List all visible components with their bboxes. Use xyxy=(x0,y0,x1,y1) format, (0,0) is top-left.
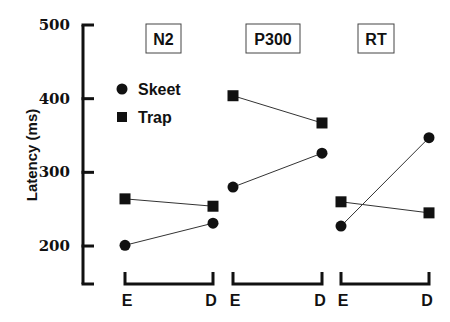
x-axis-bracket xyxy=(341,272,429,284)
y-tick-label: 200 xyxy=(39,237,70,255)
panels: N2EDP300EDRTED xyxy=(120,24,435,309)
x-axis-bracket xyxy=(233,272,322,284)
data-point-square xyxy=(424,207,435,218)
data-point-circle xyxy=(120,240,131,251)
x-category-label: E xyxy=(230,292,241,309)
x-axis-bracket xyxy=(125,272,213,284)
data-point-circle xyxy=(228,182,239,193)
y-tick-label: 300 xyxy=(39,163,70,181)
data-point-circle xyxy=(208,218,219,229)
series-line-skeet xyxy=(341,138,429,226)
y-axis: 200300400500 xyxy=(39,16,94,284)
legend-circle-icon xyxy=(117,84,128,95)
panel-label: P300 xyxy=(254,31,291,48)
x-category-label: D xyxy=(314,292,326,309)
panel-p300: P300ED xyxy=(228,24,328,309)
data-point-square xyxy=(336,196,347,207)
x-category-label: D xyxy=(205,292,217,309)
series-line-skeet xyxy=(125,223,213,245)
panel-label: RT xyxy=(365,31,387,48)
legend-label-skeet: Skeet xyxy=(138,81,181,98)
x-category-label: D xyxy=(421,292,433,309)
data-point-square xyxy=(120,193,131,204)
data-point-circle xyxy=(424,132,435,143)
latency-chart: 200300400500 Latency (ms) N2EDP300EDRTED… xyxy=(0,0,450,322)
legend-label-trap: Trap xyxy=(138,109,172,126)
data-point-circle xyxy=(336,221,347,232)
y-axis-title: Latency (ms) xyxy=(23,109,40,202)
data-point-square xyxy=(228,90,239,101)
panel-rt: RTED xyxy=(336,24,435,309)
series-line-trap xyxy=(125,199,213,206)
y-tick-label: 400 xyxy=(39,90,70,108)
legend: Skeet Trap xyxy=(117,81,182,126)
panel-label: N2 xyxy=(153,31,174,48)
series-line-trap xyxy=(341,202,429,213)
series-line-trap xyxy=(233,96,322,123)
x-category-label: E xyxy=(338,292,349,309)
legend-square-icon xyxy=(117,112,127,122)
data-point-circle xyxy=(317,148,328,159)
y-tick-label: 500 xyxy=(39,16,70,34)
panel-n2: N2ED xyxy=(120,24,219,309)
data-point-square xyxy=(317,117,328,128)
series-line-skeet xyxy=(233,153,322,187)
data-point-square xyxy=(208,201,219,212)
x-category-label: E xyxy=(122,292,133,309)
